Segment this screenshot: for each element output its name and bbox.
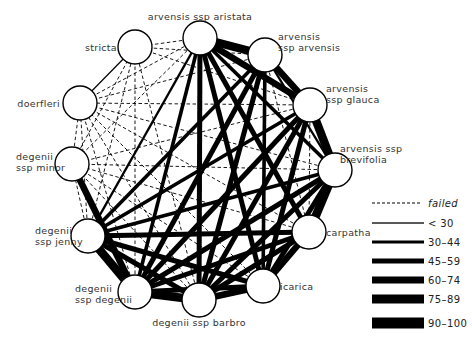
legend-label: 30–44 (428, 237, 460, 248)
legend-item-4: 60–74 (372, 275, 460, 286)
legend-item-5: 75–89 (372, 294, 460, 305)
node-label-barbro: degenii ssp barbro (152, 317, 246, 328)
legend-swatch-1 (372, 222, 424, 223)
legend-swatch-4 (372, 277, 424, 284)
node-doerfleri (63, 86, 97, 120)
node-label-carpatha: carpatha (326, 227, 371, 238)
node-label-stricta: stricta (85, 42, 117, 53)
legend-label: 45–59 (428, 256, 460, 267)
node-barbro (182, 283, 216, 317)
legend-label: 90–100 (428, 318, 467, 329)
node-arvensis (248, 38, 282, 72)
legend-item-1: < 30 (372, 218, 454, 229)
node-aristata (183, 21, 217, 55)
node-label-aristata: arvensis ssp aristata (148, 11, 252, 22)
legend-swatch-6 (372, 318, 424, 329)
crossability-network-diagram: arvensis ssp aristataarvensisssp arvensi… (0, 0, 472, 338)
node-label-glauca: arvensisssp glauca (326, 83, 380, 105)
legend-item-2: 30–44 (372, 237, 460, 248)
node-label-brevifolia: arvensis sspbrevifolia (340, 143, 402, 165)
node-label-doerfleri: doerfleri (17, 98, 60, 109)
legend-label: 75–89 (428, 294, 460, 305)
edge-arvensis-icarica (263, 55, 265, 286)
legend-swatch-5 (372, 295, 424, 304)
legend-label: 60–74 (428, 275, 460, 286)
edges-layer (72, 38, 335, 300)
legend-label: failed (428, 198, 458, 209)
node-label-icarica: icarica (280, 281, 313, 292)
legend-label: < 30 (428, 218, 454, 229)
node-carpatha (292, 215, 326, 249)
node-stricta (118, 30, 152, 64)
legend-item-0: failed (372, 198, 458, 209)
node-label-arvensis: arvensisssp arvensis (278, 31, 340, 53)
legend-swatch-2 (372, 241, 424, 244)
edge-glauca-minor (72, 105, 310, 164)
node-icarica (246, 269, 280, 303)
legend: failed< 3030–4445–5960–7475–8990–100 (372, 198, 467, 329)
legend-item-6: 90–100 (372, 318, 467, 329)
legend-item-3: 45–59 (372, 256, 460, 267)
legend-swatch-3 (372, 259, 424, 264)
node-glauca (293, 88, 327, 122)
edge-glauca-doerfleri (80, 103, 310, 105)
